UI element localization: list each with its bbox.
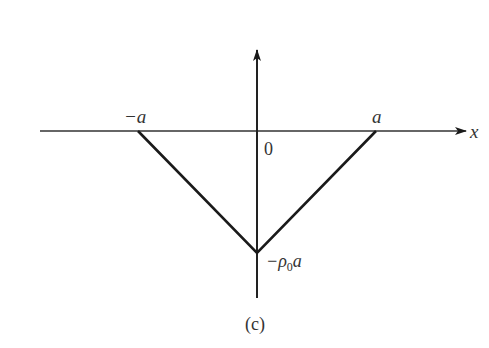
x-axis-label: x [469,121,479,142]
vertex-label-suffix: a [293,251,302,271]
diagram-canvas: x −a a 0 −ρ0a (c) [0,0,489,348]
left-point-label: −a [124,106,146,127]
vertex-label: −ρ0a [266,251,302,274]
vertex-label-prefix: −ρ [266,251,287,271]
left-point-label-text: −a [124,106,146,127]
origin-label: 0 [264,139,273,159]
figure-caption: (c) [245,314,265,335]
right-point-label: a [372,106,382,127]
